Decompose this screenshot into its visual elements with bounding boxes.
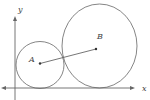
point-b-label: B [96, 32, 103, 41]
x-axis-label: x [142, 84, 147, 93]
y-axis-arrow-icon [13, 16, 17, 21]
x-axis-right-arrow-icon [130, 86, 135, 90]
segment-ab [40, 49, 96, 64]
point-b [95, 48, 97, 50]
y-axis-label: y [17, 5, 23, 14]
large-circle [62, 4, 137, 88]
geometry-diagram: y x A B [0, 0, 150, 100]
point-a [39, 62, 41, 64]
y-axis: y [13, 5, 23, 100]
x-axis-left-arrow-icon [1, 86, 6, 90]
x-axis: x [1, 84, 147, 93]
point-a-label: A [28, 55, 35, 64]
small-circle [16, 42, 64, 89]
